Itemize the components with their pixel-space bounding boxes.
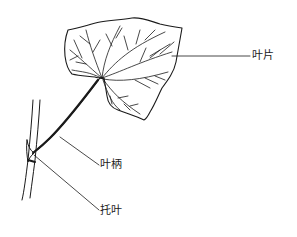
leaf-veins	[70, 26, 174, 114]
label-stipule: 托叶	[100, 205, 122, 217]
leaf-illustration	[0, 0, 297, 237]
leaf-diagram: 叶片 叶柄 托叶	[0, 0, 297, 237]
label-leaf-blade: 叶片	[252, 50, 274, 62]
leader-petiole	[60, 137, 99, 165]
leaf-blade	[65, 18, 182, 120]
leader-stipule	[34, 155, 99, 210]
label-petiole: 叶柄	[100, 159, 122, 171]
leader-lines	[34, 56, 250, 210]
